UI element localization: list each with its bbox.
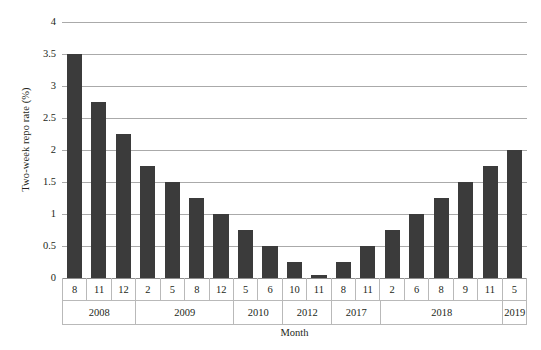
x-axis-title: Month <box>62 327 527 338</box>
bar <box>140 166 155 278</box>
bar <box>91 102 106 278</box>
x-axis-month-label: 10 <box>282 278 306 301</box>
x-axis-month-label: 2 <box>135 278 159 301</box>
x-axis-month-label: 8 <box>331 278 355 301</box>
x-axis-month-label: 2 <box>379 278 403 301</box>
x-axis-year-label: 2010 <box>233 301 282 325</box>
bar <box>238 230 253 278</box>
y-axis-tick-label: 0.5 <box>43 241 56 252</box>
y-axis-tick-label: 3 <box>51 81 56 92</box>
bar <box>409 214 424 278</box>
x-axis-year-label: 2009 <box>135 301 233 325</box>
y-axis-tick-labels: 00.511.522.533.54 <box>30 22 56 278</box>
plot-area <box>62 22 527 278</box>
x-axis-month-row: 81112258125610118112689115 <box>62 278 527 301</box>
bar <box>360 246 375 278</box>
x-axis-month-label: 12 <box>209 278 233 301</box>
bar-slot <box>356 22 380 278</box>
bar-slot <box>258 22 282 278</box>
x-axis-month-label: 5 <box>160 278 184 301</box>
bar <box>507 150 522 278</box>
bar <box>287 262 302 278</box>
bar <box>262 246 277 278</box>
y-axis-tick-label: 2 <box>51 145 56 156</box>
bars-layer <box>62 22 527 278</box>
x-axis-month-label: 9 <box>453 278 477 301</box>
y-axis-tick-label: 1 <box>51 209 56 220</box>
bar-chart-figure: Two-week repo rate (%) 00.511.522.533.54… <box>0 0 541 350</box>
bar-slot <box>502 22 526 278</box>
bar <box>336 262 351 278</box>
x-axis-table: 81112258125610118112689115 2008200920102… <box>62 278 527 325</box>
x-axis-month-label: 6 <box>404 278 428 301</box>
x-axis-year-label: 2018 <box>380 301 502 325</box>
bar-slot <box>184 22 208 278</box>
bar-slot <box>478 22 502 278</box>
y-axis-tick-label: 2.5 <box>43 113 56 124</box>
bar <box>213 214 228 278</box>
x-axis-year-label: 2008 <box>62 301 135 325</box>
x-axis-year-label: 2017 <box>331 301 380 325</box>
bar <box>385 230 400 278</box>
x-axis-month-label: 5 <box>233 278 257 301</box>
bar <box>165 182 180 278</box>
bar-slot <box>405 22 429 278</box>
bar-slot <box>282 22 306 278</box>
bar <box>116 134 131 278</box>
bar-slot <box>209 22 233 278</box>
x-axis-month-label: 12 <box>111 278 135 301</box>
bar <box>67 54 82 278</box>
y-axis-title-text: Two-week repo rate (%) <box>20 87 31 191</box>
x-axis-month-label: 8 <box>428 278 452 301</box>
x-axis-month-label: 11 <box>477 278 501 301</box>
x-axis-month-label: 11 <box>306 278 330 301</box>
y-axis-tick-label: 4 <box>51 17 56 28</box>
bar <box>483 166 498 278</box>
bar-slot <box>454 22 478 278</box>
bar-slot <box>135 22 159 278</box>
bar-slot <box>331 22 355 278</box>
y-axis-tick-label: 3.5 <box>43 49 56 60</box>
bar-slot <box>111 22 135 278</box>
x-axis-month-label: 6 <box>257 278 281 301</box>
bar <box>458 182 473 278</box>
x-axis-month-label: 5 <box>502 278 527 301</box>
bar-slot <box>429 22 453 278</box>
bar-slot <box>86 22 110 278</box>
x-axis-year-label: 2019 <box>502 301 526 325</box>
x-axis-month-label: 11 <box>86 278 110 301</box>
x-axis-month-label: 11 <box>355 278 379 301</box>
x-axis-year-row: 2008200920102012201720182019 <box>62 301 527 325</box>
x-axis-month-label: 8 <box>62 278 86 301</box>
bar <box>189 198 204 278</box>
x-axis-month-label: 8 <box>184 278 208 301</box>
x-axis-year-label: 2012 <box>282 301 331 325</box>
bar <box>434 198 449 278</box>
bar-slot <box>380 22 404 278</box>
y-axis-tick-label: 0 <box>51 273 56 284</box>
bar-slot <box>233 22 257 278</box>
bar-slot <box>160 22 184 278</box>
y-axis-tick-label: 1.5 <box>43 177 56 188</box>
bar-slot <box>307 22 331 278</box>
bar-slot <box>62 22 86 278</box>
